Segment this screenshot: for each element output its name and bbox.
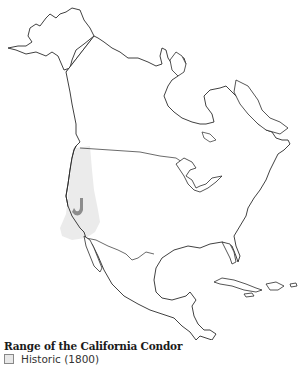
continent-outline xyxy=(66,36,290,340)
historic-range-swatch xyxy=(4,354,14,364)
jamaica xyxy=(244,293,254,297)
puerto-rico xyxy=(290,283,297,287)
hispaniola xyxy=(266,282,284,290)
legend-title: Range of the California Condor xyxy=(4,340,301,353)
legend-item-historic: Historic (1800) xyxy=(4,353,301,365)
map-legend: Range of the California Condor Historic … xyxy=(4,340,301,365)
north-america-map xyxy=(0,0,301,340)
cuba xyxy=(214,278,262,292)
legend-item-label: Historic (1800) xyxy=(21,353,99,365)
